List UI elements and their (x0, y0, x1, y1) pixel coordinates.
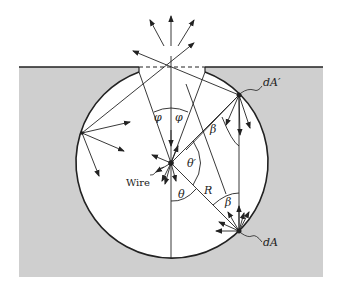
left-wall-rays (82, 122, 130, 176)
dA-label: dA (263, 236, 278, 249)
beta-lower-label: β (224, 196, 231, 209)
dA-point (237, 229, 242, 234)
wire-label: Wire (126, 177, 150, 188)
cavity-diagram: φ φ dA′ β Wire θ′ θ R (0, 0, 340, 296)
phi-cone (139, 72, 205, 163)
dA-prime-label: dA′ (263, 76, 281, 89)
beta-upper-label: β (209, 123, 216, 136)
theta-label: θ (178, 188, 185, 201)
radius-label: R (203, 184, 212, 197)
escaping-rays (150, 16, 194, 67)
phi-right-label: φ (175, 111, 183, 124)
theta-prime-label: θ′ (187, 157, 197, 170)
phi-left-label: φ (154, 111, 162, 124)
wire-rays (152, 146, 178, 184)
dA-prime-rays (186, 95, 250, 150)
